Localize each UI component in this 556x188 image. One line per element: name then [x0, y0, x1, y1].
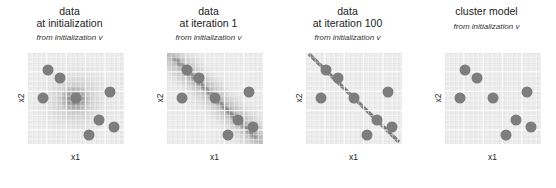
data-point	[362, 129, 373, 140]
panel-title-line: data	[337, 6, 357, 18]
data-point	[321, 65, 332, 76]
x-axis-label: x1	[417, 152, 556, 162]
data-point	[510, 115, 521, 126]
plot-row: x2	[278, 50, 417, 146]
plot-panel: cluster modelfrom initialization vx2x1	[417, 0, 556, 188]
panel-title-line: at iteration 1	[180, 18, 238, 30]
panel-subtitle: from initialization v	[37, 33, 103, 43]
data-point	[109, 122, 120, 133]
y-axis-label: x2	[294, 94, 304, 103]
plot-area	[444, 52, 541, 144]
panel-title-line: at iteration 100	[313, 18, 382, 30]
data-point	[501, 129, 512, 140]
data-point	[471, 72, 482, 83]
data-point	[487, 93, 498, 104]
data-point	[455, 93, 466, 104]
data-point	[70, 93, 81, 104]
data-point	[460, 65, 471, 76]
panel-title-line: data	[198, 6, 218, 18]
data-point	[209, 93, 220, 104]
data-point	[248, 122, 259, 133]
data-point	[383, 87, 394, 98]
data-point	[232, 115, 243, 126]
panel-title-block: dataat initializationfrom initialization…	[0, 0, 139, 50]
panel-subtitle: from initialization v	[176, 33, 242, 43]
data-point	[105, 87, 116, 98]
x-axis-label: x1	[139, 152, 278, 162]
panel-title-block: cluster modelfrom initialization v	[417, 0, 556, 50]
y-axis-label: x2	[433, 94, 443, 103]
data-point	[371, 115, 382, 126]
plot-area	[166, 52, 263, 144]
x-axis-label: x1	[278, 152, 417, 162]
figure-panel-row: dataat initializationfrom initialization…	[0, 0, 556, 188]
panel-title-line: at initialization	[37, 18, 103, 30]
panel-title-block: dataat iteration 100from initialization …	[278, 0, 417, 50]
plot-area	[305, 52, 402, 144]
x-axis-label: x1	[0, 152, 139, 162]
plot-row: x2	[417, 50, 556, 146]
panel-subtitle: from initialization v	[454, 22, 520, 32]
data-point	[316, 93, 327, 104]
data-point	[522, 87, 533, 98]
plot-panel: dataat initializationfrom initialization…	[0, 0, 139, 188]
panel-title-line: cluster model	[455, 6, 517, 18]
data-point	[193, 72, 204, 83]
data-points-layer	[166, 52, 263, 144]
panel-subtitle: from initialization v	[315, 33, 381, 43]
data-points-layer	[27, 52, 124, 144]
panel-title-block: dataat iteration 1from initialization v	[139, 0, 278, 50]
y-axis-label: x2	[16, 94, 26, 103]
data-point	[84, 129, 95, 140]
data-point	[387, 122, 398, 133]
plot-row: x2	[0, 50, 139, 146]
plot-panel: dataat iteration 1from initialization vx…	[139, 0, 278, 188]
data-point	[332, 72, 343, 83]
plot-area	[27, 52, 124, 144]
data-point	[93, 115, 104, 126]
data-point	[177, 93, 188, 104]
data-point	[223, 129, 234, 140]
plot-panel: dataat iteration 100from initialization …	[278, 0, 417, 188]
data-point	[38, 93, 49, 104]
plot-row: x2	[139, 50, 278, 146]
data-point	[182, 65, 193, 76]
data-point	[526, 122, 537, 133]
data-point	[348, 93, 359, 104]
data-points-layer	[305, 52, 402, 144]
data-points-layer	[444, 52, 541, 144]
data-point	[244, 87, 255, 98]
data-point	[43, 65, 54, 76]
y-axis-label: x2	[155, 94, 165, 103]
data-point	[54, 72, 65, 83]
panel-title-line: data	[59, 6, 79, 18]
